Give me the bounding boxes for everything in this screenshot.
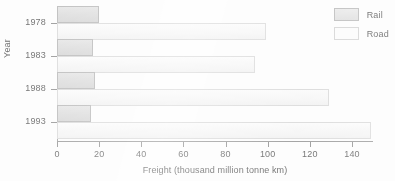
- bar-rail-1983: [57, 39, 93, 56]
- x-tick-label-80: 80: [220, 149, 230, 159]
- y-tick-label-1983: 1983: [25, 50, 46, 60]
- legend-swatch-road: [334, 27, 359, 40]
- y-tick-label-1978: 1978: [25, 17, 46, 27]
- x-tick-60: [183, 142, 184, 147]
- y-tick-1983: [51, 56, 57, 57]
- x-tick-label-60: 60: [178, 149, 188, 159]
- x-tick-0: [57, 142, 58, 147]
- bar-road-1978: [57, 23, 266, 40]
- bar-rail-1993: [57, 105, 91, 122]
- y-tick-1988: [51, 89, 57, 90]
- x-tick-20: [99, 142, 100, 147]
- legend-item-rail[interactable]: Rail: [334, 8, 389, 21]
- x-tick-140: [352, 142, 353, 147]
- bar-rail-1978: [57, 6, 99, 23]
- y-tick-1978: [51, 23, 57, 24]
- bar-road-1993: [57, 122, 371, 139]
- x-tick-40: [141, 142, 142, 147]
- legend-label-rail: Rail: [367, 10, 383, 20]
- bar-rail-1988: [57, 72, 95, 89]
- plot-area: [57, 6, 360, 140]
- x-tick-label-100: 100: [260, 149, 276, 159]
- y-axis-title: Year: [2, 39, 12, 58]
- bar-road-1983: [57, 56, 255, 73]
- bar-road-1988: [57, 89, 329, 106]
- x-tick-80: [226, 142, 227, 147]
- legend-item-road[interactable]: Road: [334, 27, 389, 40]
- legend-label-road: Road: [367, 29, 389, 39]
- x-tick-label-20: 20: [94, 149, 104, 159]
- x-tick-120: [310, 142, 311, 147]
- y-tick-label-1988: 1988: [25, 83, 46, 93]
- x-tick-label-40: 40: [136, 149, 146, 159]
- y-tick-1993: [51, 122, 57, 123]
- x-axis-title: Freight (thousand million tonne km): [57, 165, 373, 175]
- x-tick-label-0: 0: [54, 149, 59, 159]
- x-tick-label-120: 120: [302, 149, 318, 159]
- freight-bar-chart: Year 1978198319881993 020406080100120140…: [0, 0, 395, 181]
- x-tick-label-140: 140: [344, 149, 360, 159]
- legend-swatch-rail: [334, 8, 359, 21]
- y-tick-label-1993: 1993: [25, 116, 46, 126]
- x-axis-line: [57, 141, 373, 142]
- x-tick-100: [268, 142, 269, 147]
- chart-legend: RailRoad: [334, 8, 389, 40]
